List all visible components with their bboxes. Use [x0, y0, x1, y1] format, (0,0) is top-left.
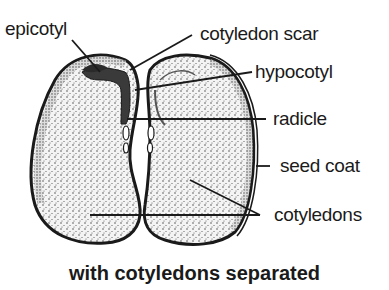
- label-cotyledons: cotyledons: [274, 205, 362, 224]
- label-cotyledon-scar: cotyledon scar: [200, 24, 318, 43]
- label-hypocotyl: hypocotyl: [255, 62, 333, 81]
- right-cotyledon: [144, 55, 253, 244]
- label-epicotyl: epicotyl: [5, 19, 67, 38]
- seed-illustration: [0, 0, 389, 290]
- label-radicle: radicle: [273, 109, 327, 128]
- label-seed-coat: seed coat: [280, 156, 360, 175]
- diagram-caption: with cotyledons separated: [0, 262, 389, 285]
